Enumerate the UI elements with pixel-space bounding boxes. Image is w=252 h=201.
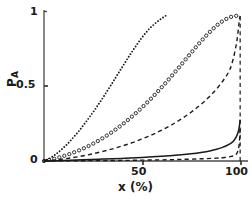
- data-marker: [91, 113, 93, 115]
- data-marker: [131, 51, 133, 53]
- data-marker: [142, 104, 145, 107]
- data-marker: [116, 74, 118, 76]
- data-marker: [68, 142, 70, 144]
- data-marker: [82, 125, 84, 127]
- data-marker: [101, 137, 104, 140]
- data-marker: [109, 131, 112, 134]
- data-marker: [103, 95, 105, 97]
- data-marker: [160, 18, 162, 20]
- series-curve-solid-low: [44, 120, 240, 161]
- data-marker: [120, 69, 122, 71]
- data-marker: [89, 115, 91, 117]
- data-marker: [118, 71, 120, 73]
- data-marker: [124, 61, 126, 63]
- data-marker: [54, 154, 56, 156]
- data-marker: [126, 58, 128, 60]
- data-marker: [121, 66, 123, 68]
- data-marker: [149, 97, 152, 100]
- data-marker: [148, 28, 150, 30]
- xtick-label-100: 100: [225, 166, 248, 177]
- x-axis-title: x (%): [118, 181, 153, 193]
- ytick-label-1: 1: [30, 6, 38, 17]
- data-marker: [187, 54, 190, 57]
- data-marker: [101, 98, 103, 100]
- data-marker: [134, 112, 137, 115]
- axis-ticks: [44, 12, 241, 166]
- data-marker: [135, 46, 137, 48]
- data-marker: [59, 150, 61, 152]
- data-marker: [194, 46, 197, 49]
- axis-lines: [44, 10, 248, 161]
- data-marker: [85, 120, 87, 122]
- data-marker: [95, 108, 97, 110]
- data-marker: [105, 92, 107, 94]
- data-marker: [220, 20, 223, 23]
- data-marker: [63, 154, 66, 157]
- series-curve-dashed-rising: [44, 16, 240, 161]
- data-marker: [160, 86, 163, 89]
- data-marker: [191, 50, 194, 53]
- data-marker: [87, 118, 89, 120]
- data-marker: [184, 58, 187, 61]
- data-marker: [225, 17, 228, 20]
- data-marker: [198, 42, 201, 45]
- data-marker: [68, 152, 71, 155]
- data-marker: [174, 70, 177, 73]
- data-marker: [216, 23, 219, 26]
- chart-plot-area: [0, 0, 252, 201]
- data-marker: [74, 135, 76, 137]
- chart-figure: 1 0.5 0 50 100 x (%) PA: [0, 0, 252, 201]
- data-marker: [162, 17, 164, 19]
- data-marker: [87, 144, 90, 147]
- data-marker: [150, 26, 152, 28]
- data-marker: [56, 152, 58, 154]
- series-curve-dots-steepest: [43, 15, 167, 162]
- data-marker: [113, 79, 115, 81]
- data-marker: [128, 56, 130, 58]
- chart-series-layer: [42, 14, 240, 162]
- data-marker: [142, 35, 144, 37]
- data-marker: [144, 33, 146, 35]
- data-marker: [82, 147, 85, 150]
- series-path: [44, 16, 240, 161]
- data-marker: [114, 128, 117, 131]
- data-marker: [108, 87, 110, 89]
- data-marker: [235, 14, 238, 17]
- data-marker: [111, 82, 113, 84]
- data-marker: [122, 122, 125, 125]
- data-marker: [92, 142, 95, 145]
- data-marker: [126, 118, 129, 121]
- series-path: [44, 120, 240, 161]
- data-marker: [155, 22, 157, 24]
- data-marker: [212, 27, 215, 30]
- series-curve-dashed-flat: [44, 127, 240, 161]
- data-marker: [138, 108, 141, 111]
- data-marker: [77, 149, 80, 152]
- data-marker: [205, 34, 208, 37]
- data-marker: [157, 89, 160, 92]
- data-marker: [133, 48, 135, 50]
- y-axis-title-subscript: A: [10, 71, 20, 78]
- data-marker: [208, 30, 211, 33]
- data-marker: [100, 100, 102, 102]
- data-marker: [98, 103, 100, 105]
- data-marker: [93, 110, 95, 112]
- data-marker: [146, 31, 148, 33]
- data-marker: [118, 125, 121, 128]
- data-marker: [136, 43, 138, 45]
- data-marker: [76, 133, 78, 135]
- y-axis-title-base: P: [5, 78, 19, 87]
- data-marker: [167, 78, 170, 81]
- data-marker: [66, 144, 68, 146]
- data-marker: [201, 38, 204, 41]
- data-marker: [61, 148, 63, 150]
- data-marker: [110, 85, 112, 87]
- data-marker: [146, 101, 149, 104]
- series-path: [44, 127, 240, 161]
- data-marker: [130, 115, 133, 118]
- data-marker: [153, 93, 156, 96]
- data-marker: [106, 90, 108, 92]
- data-marker: [140, 38, 142, 40]
- xtick-label-50: 50: [131, 166, 146, 177]
- data-marker: [96, 105, 98, 107]
